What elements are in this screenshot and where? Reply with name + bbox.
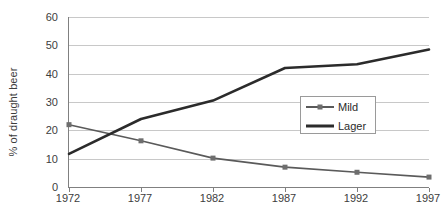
data-point-marker: [427, 175, 432, 180]
x-axis-tick-label: 1987: [272, 192, 296, 204]
legend-line-icon: [306, 124, 334, 127]
y-axis-tick-label: 60: [46, 11, 58, 23]
data-point-marker: [283, 165, 288, 170]
x-axis-tick-label: 1972: [56, 192, 80, 204]
y-axis-tick-label: 30: [46, 96, 58, 108]
y-axis-title: % of draught beer: [0, 0, 26, 224]
x-axis-tick-label: 1992: [344, 192, 368, 204]
legend-item-lager: Lager: [301, 116, 375, 135]
legend-label-mild: Mild: [338, 101, 358, 113]
legend-swatch-mild: [305, 100, 335, 114]
y-axis-tick-label: 50: [46, 39, 58, 51]
data-point-marker: [355, 170, 360, 175]
legend-square-marker-icon: [318, 104, 323, 109]
line-chart: % of draught beer 0102030405060 19721977…: [0, 0, 445, 224]
y-axis-tick-label: 10: [46, 153, 58, 165]
y-axis-tick-labels: 0102030405060: [26, 10, 62, 194]
legend-label-lager: Lager: [338, 120, 366, 132]
legend-item-mild: Mild: [301, 97, 375, 116]
chart-legend: Mild Lager: [300, 96, 376, 134]
x-axis-tick-labels: 197219771982198719921997: [68, 192, 428, 212]
data-point-marker: [211, 156, 216, 161]
y-axis-tick-label: 20: [46, 124, 58, 136]
data-point-marker: [67, 122, 72, 127]
x-axis-tick-label: 1977: [128, 192, 152, 204]
x-axis-tick-label: 1982: [200, 192, 224, 204]
legend-swatch-lager: [305, 119, 335, 133]
data-point-marker: [139, 138, 144, 143]
x-axis-tick-label: 1997: [416, 192, 440, 204]
y-axis-tick-label: 40: [46, 68, 58, 80]
